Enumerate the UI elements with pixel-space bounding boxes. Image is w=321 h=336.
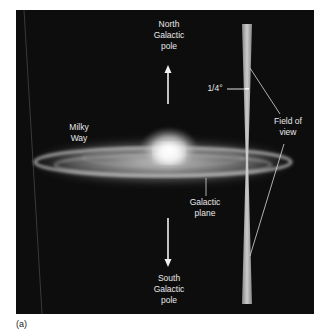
south-arrow-icon: [165, 218, 172, 267]
north-label-line1: North: [146, 19, 192, 30]
galaxy-diagram: [16, 10, 314, 314]
north-arrow-icon: [165, 65, 172, 104]
milky-way-line1: Milky: [62, 122, 96, 133]
fov-label-line2: view: [266, 127, 310, 138]
field-of-view-label: Field of view: [266, 116, 310, 138]
north-galactic-pole-label: North Galactic pole: [146, 19, 192, 52]
north-label-line2: Galactic: [146, 30, 192, 41]
fov-leader-top: [250, 68, 280, 114]
south-label-line3: pole: [146, 295, 192, 306]
plane-label-line1: Galactic: [183, 197, 227, 208]
south-label-line1: South: [146, 273, 192, 284]
fov-label-line1: Field of: [266, 116, 310, 127]
south-label-line2: Galactic: [146, 284, 192, 295]
north-label-line3: pole: [146, 41, 192, 52]
galactic-plane-label: Galactic plane: [183, 197, 227, 219]
milky-way-line2: Way: [62, 133, 96, 144]
figure-caption: (a): [16, 319, 27, 329]
south-galactic-pole-label: South Galactic pole: [146, 273, 192, 306]
angle-label: 1/4°: [203, 83, 227, 94]
milky-way-label: Milky Way: [62, 122, 96, 144]
diagram-panel: North Galactic pole 1/4° Field of view M…: [16, 10, 314, 314]
plane-label-line2: plane: [183, 208, 227, 219]
